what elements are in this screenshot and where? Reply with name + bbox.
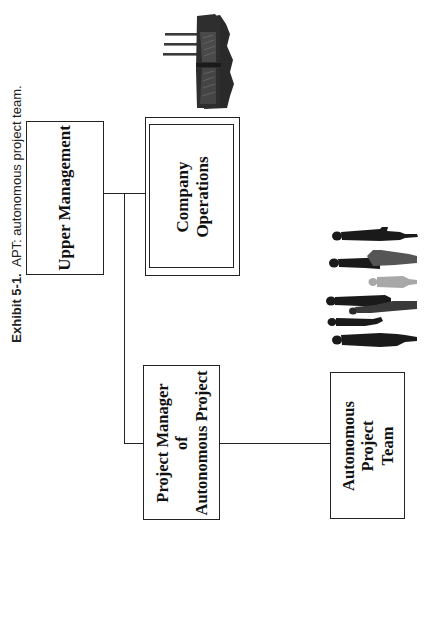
autonomous-team-line-1: Autonomous [338,401,357,491]
people-group-icon [325,225,425,353]
autonomous-team-line-2: Project [358,401,377,491]
autonomous-team-box: Autonomous Project Team [330,372,405,519]
upper-management-box: Upper Management [26,121,104,275]
connector-manager-to-team [220,443,330,444]
caption-label: Exhibit 5-1. [9,273,24,342]
caption-text: APT: autonomous project team. [9,85,24,266]
factory-icon [160,10,240,115]
autonomous-team-line-3: Team [377,401,396,491]
person-silhouette [328,317,384,326]
upper-management-label: Upper Management [55,125,75,271]
person-silhouette [332,333,417,347]
org-diagram: Exhibit 5-1. APT: autonomous project tea… [0,0,432,625]
project-manager-line-1: Project Manager [152,370,171,515]
company-operations-line-1: Company [172,156,192,237]
person-silhouette [329,250,417,269]
exhibit-caption: Exhibit 5-1. APT: autonomous project tea… [9,85,24,342]
project-manager-line-2: of [172,370,191,515]
connector-vertical-trunk [124,193,125,443]
connector-trunk-to-manager [124,443,143,444]
person-silhouette [332,227,418,241]
person-silhouette [369,276,418,288]
project-manager-line-3: Autonomous Project [191,370,210,515]
company-operations-line-2: Operations [193,156,213,237]
company-operations-box: Company Operations [145,117,240,276]
project-manager-box: Project Manager of Autonomous Project [143,365,220,520]
person-silhouette [326,295,417,315]
